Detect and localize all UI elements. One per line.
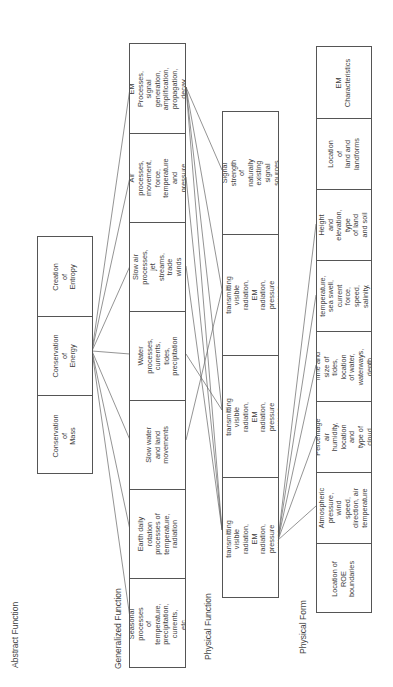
cell-conservation-of-energy: Conservation of Energy	[38, 316, 92, 395]
cell-conservation-of-mass: Conservation of Mass	[38, 395, 92, 475]
generalized-function-column: EM Processes, signal generation, amplifi…	[129, 43, 186, 668]
physical-form-column: EM Characteristics Location of land and …	[316, 46, 372, 613]
cell-atmospheric-pressure: Atmospheric pressure, wind speed, direct…	[317, 472, 371, 543]
physical-form-label: Physical Form	[298, 600, 308, 654]
cell-water: Water Capability of transmitting visible…	[223, 355, 278, 477]
cell-land: Land Capability of transmitting visible …	[223, 234, 278, 355]
cell-location-land: Location of land and landforms	[317, 118, 371, 189]
physical-function-label: Physical Function	[203, 593, 213, 660]
cell-water-processes: Water processes, currents, tides, precip…	[130, 311, 185, 400]
cell-height-elevation: Height and elevation, type of land and s…	[317, 189, 371, 260]
cell-water-temperature: Water temperature, sea swell, current fo…	[317, 260, 371, 331]
cell-seasonal-processes: Seasonal processes of temperature, preci…	[130, 578, 185, 669]
cell-tides: Time and size of tides, location of wate…	[317, 331, 371, 401]
cell-roe-boundaries: Location of ROE boundaries	[317, 543, 371, 614]
cell-em-processes: EM Processes, signal generation, amplifi…	[130, 44, 185, 133]
cell-air-processes: Air processes, movement, force, temperat…	[130, 133, 185, 222]
physical-function-column: Signal strength of naturally existing si…	[222, 111, 279, 598]
cell-slow-water-land: Slow water and land movements	[130, 400, 185, 489]
cell-em-characteristics: EM Characteristics	[317, 47, 371, 118]
generalized-function-label: Generalized Function	[113, 588, 123, 669]
cell-creation-of-entropy: Creation of Entropy	[38, 237, 92, 316]
cell-air-humidity: Percentage air humidity, location and ty…	[317, 401, 371, 472]
cell-signal-strength: Signal strength of naturally existing si…	[223, 112, 278, 234]
cell-air: Air Capability of transmitting visible r…	[223, 477, 278, 599]
abstract-function-label: Abstract Function	[10, 602, 20, 668]
abstract-function-column: Creation of Entropy Conservation of Ener…	[37, 236, 93, 474]
cell-slow-air-processes: Slow air processes, jet streams, trade w…	[130, 222, 185, 311]
cell-earth-daily-rotation: Earth daily rotation processes of temper…	[130, 489, 185, 578]
